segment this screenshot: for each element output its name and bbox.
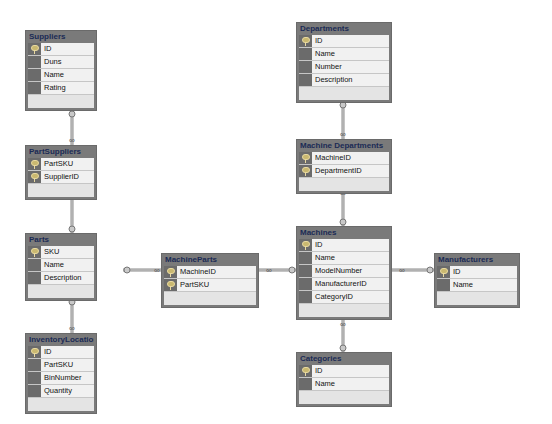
table-title[interactable]: Categories — [299, 353, 389, 365]
row-selector[interactable] — [299, 152, 312, 164]
table-departments[interactable]: DepartmentsIDNameNumberDescription — [296, 22, 392, 103]
column-row[interactable]: ID — [437, 266, 517, 279]
table-title[interactable]: InventoryLocations — [28, 334, 94, 346]
row-selector[interactable] — [299, 35, 312, 47]
table-title[interactable]: Manufacturers — [437, 254, 517, 266]
column-row[interactable]: Quantity — [28, 385, 94, 398]
column-row[interactable]: Description — [28, 272, 94, 285]
one-end-key-icon — [340, 345, 346, 351]
table-machinedepartments[interactable]: Machine DepartmentsMachineIDDepartmentID — [296, 139, 392, 194]
row-selector[interactable] — [28, 69, 41, 81]
column-name: MachineID — [177, 266, 256, 278]
column-row[interactable]: ModelNumber — [299, 265, 389, 278]
column-row[interactable]: Name — [299, 378, 389, 391]
column-name: SupplierID — [41, 171, 94, 183]
column-row[interactable]: CategoryID — [299, 291, 389, 304]
new-column-row[interactable] — [28, 398, 94, 411]
row-selector[interactable] — [299, 165, 312, 177]
row-selector[interactable] — [299, 252, 312, 264]
column-row[interactable]: Rating — [28, 82, 94, 95]
column-row[interactable]: Description — [299, 74, 389, 87]
column-name: ID — [41, 346, 94, 358]
row-selector[interactable] — [28, 43, 41, 55]
column-row[interactable]: ID — [299, 239, 389, 252]
row-selector[interactable] — [299, 365, 312, 377]
table-machines[interactable]: MachinesIDNameModelNumberManufacturerIDC… — [296, 226, 392, 320]
column-name: Name — [312, 48, 389, 60]
column-row[interactable]: ID — [299, 35, 389, 48]
row-selector[interactable] — [299, 278, 312, 290]
column-row[interactable]: Name — [299, 252, 389, 265]
column-row[interactable]: DepartmentID — [299, 165, 389, 178]
column-name: BinNumber — [41, 372, 94, 384]
row-selector[interactable] — [28, 272, 41, 284]
column-row[interactable]: Name — [437, 279, 517, 292]
row-selector[interactable] — [28, 346, 41, 358]
column-row[interactable]: Name — [28, 259, 94, 272]
table-machineparts[interactable]: MachinePartsMachineIDPartSKU — [161, 253, 259, 308]
column-row[interactable]: MachineID — [164, 266, 256, 279]
row-selector[interactable] — [28, 372, 41, 384]
new-column-row[interactable] — [28, 184, 94, 197]
table-title[interactable]: Suppliers — [28, 31, 94, 43]
column-row[interactable]: BinNumber — [28, 372, 94, 385]
column-row[interactable]: SKU — [28, 246, 94, 259]
row-selector[interactable] — [299, 291, 312, 303]
row-selector[interactable] — [437, 279, 450, 291]
row-selector[interactable] — [28, 259, 41, 271]
one-end-key-icon — [69, 226, 75, 232]
column-name: Rating — [41, 82, 94, 94]
row-selector[interactable] — [28, 171, 41, 183]
column-row[interactable]: ID — [28, 346, 94, 359]
new-column-row[interactable] — [299, 391, 389, 404]
table-partsuppliers[interactable]: PartSuppliersPartSKUSupplierID — [25, 145, 97, 200]
table-title[interactable]: Machines — [299, 227, 389, 239]
row-selector[interactable] — [299, 61, 312, 73]
row-selector[interactable] — [437, 266, 450, 278]
column-row[interactable]: SupplierID — [28, 171, 94, 184]
column-row[interactable]: ID — [299, 365, 389, 378]
table-manufacturers[interactable]: ManufacturersIDName — [434, 253, 520, 308]
row-selector[interactable] — [299, 74, 312, 86]
row-selector[interactable] — [299, 48, 312, 60]
table-categories[interactable]: CategoriesIDName — [296, 352, 392, 407]
table-inventorylocations[interactable]: InventoryLocationsIDPartSKUBinNumberQuan… — [25, 333, 97, 414]
table-title[interactable]: PartSuppliers — [28, 146, 94, 158]
one-end-key-icon — [69, 111, 75, 117]
table-title[interactable]: MachineParts — [164, 254, 256, 266]
column-row[interactable]: PartSKU — [28, 158, 94, 171]
column-row[interactable]: PartSKU — [28, 359, 94, 372]
new-column-row[interactable] — [299, 87, 389, 100]
new-column-row[interactable] — [28, 95, 94, 108]
row-selector[interactable] — [299, 239, 312, 251]
table-parts[interactable]: PartsSKUNameDescription — [25, 233, 97, 301]
row-selector[interactable] — [28, 359, 41, 371]
column-row[interactable]: ID — [28, 43, 94, 56]
column-row[interactable]: PartSKU — [164, 279, 256, 292]
row-selector[interactable] — [28, 246, 41, 258]
row-selector[interactable] — [28, 158, 41, 170]
table-title[interactable]: Parts — [28, 234, 94, 246]
row-selector[interactable] — [28, 385, 41, 397]
row-selector[interactable] — [164, 266, 177, 278]
row-selector[interactable] — [164, 279, 177, 291]
column-row[interactable]: Duns — [28, 56, 94, 69]
many-end-infinity-icon: ∞ — [154, 266, 160, 275]
new-column-row[interactable] — [437, 292, 517, 305]
row-selector[interactable] — [28, 56, 41, 68]
table-suppliers[interactable]: SuppliersIDDunsNameRating — [25, 30, 97, 111]
column-row[interactable]: Name — [299, 48, 389, 61]
new-column-row[interactable] — [28, 285, 94, 298]
column-row[interactable]: Name — [28, 69, 94, 82]
table-title[interactable]: Machine Departments — [299, 140, 389, 152]
row-selector[interactable] — [299, 378, 312, 390]
new-column-row[interactable] — [299, 304, 389, 317]
row-selector[interactable] — [28, 82, 41, 94]
new-column-row[interactable] — [299, 178, 389, 191]
column-row[interactable]: MachineID — [299, 152, 389, 165]
column-row[interactable]: ManufacturerID — [299, 278, 389, 291]
new-column-row[interactable] — [164, 292, 256, 305]
row-selector[interactable] — [299, 265, 312, 277]
table-title[interactable]: Departments — [299, 23, 389, 35]
column-row[interactable]: Number — [299, 61, 389, 74]
